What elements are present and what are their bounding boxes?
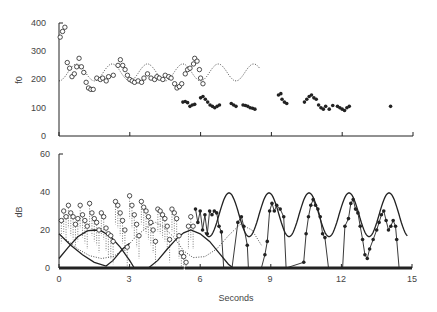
data-point [58, 35, 62, 39]
data-point [94, 220, 98, 224]
data-point [347, 105, 351, 109]
data-point [201, 95, 205, 99]
series-filled-dots-trace [194, 198, 399, 268]
bottom-axes [59, 154, 412, 268]
data-point [172, 82, 176, 86]
data-point [76, 216, 80, 220]
data-point [394, 224, 398, 228]
bottom-series [59, 193, 412, 268]
data-point [184, 260, 188, 264]
data-point [123, 67, 127, 71]
xtick-0: 0 [56, 274, 61, 284]
data-point [275, 204, 279, 208]
data-point [368, 247, 372, 251]
data-point [363, 253, 367, 257]
data-point [186, 101, 190, 105]
data-point [163, 216, 167, 220]
data-point [116, 203, 120, 207]
data-point [316, 207, 320, 211]
data-point [125, 245, 129, 249]
data-point [75, 65, 79, 69]
data-point [121, 63, 125, 67]
data-point [273, 209, 277, 213]
data-point [85, 224, 89, 228]
data-point [263, 253, 267, 257]
data-point [102, 215, 106, 219]
data-point [127, 194, 131, 198]
data-point [116, 63, 120, 67]
data-point [206, 100, 210, 104]
bottom-xlabel: Seconds [218, 293, 254, 303]
data-point [91, 87, 95, 91]
data-point [343, 109, 347, 113]
xtick-9: 9 [267, 274, 272, 284]
chart-canvas: f0 0 100 200 300 400 dB 0 20 40 60 0 3 [0, 0, 437, 312]
data-point [387, 228, 391, 232]
data-point [195, 59, 199, 63]
data-point [123, 228, 127, 232]
data-point [111, 239, 115, 243]
data-point [169, 76, 173, 80]
data-point [174, 216, 178, 220]
data-point [280, 97, 284, 101]
data-point [142, 76, 146, 80]
data-point [153, 239, 157, 243]
data-point [73, 222, 77, 226]
bottom-ylabel: dB [14, 206, 24, 217]
data-point [371, 238, 375, 242]
data-point [59, 218, 63, 222]
data-point [87, 201, 91, 205]
data-point [196, 221, 200, 225]
data-point [205, 232, 209, 236]
bottom-ytick-40: 40 [40, 187, 50, 197]
data-point [220, 230, 224, 234]
top-ytick-100: 100 [31, 103, 46, 113]
data-point [343, 224, 347, 228]
xtick-6: 6 [197, 274, 202, 284]
data-point [395, 238, 399, 242]
top-ytick-200: 200 [31, 74, 46, 84]
data-point [167, 237, 171, 241]
top-ytick-0: 0 [41, 131, 46, 141]
data-point [111, 73, 115, 77]
data-point [139, 199, 143, 203]
data-point [391, 219, 395, 223]
bottom-ytick-labels: 0 20 40 60 [40, 149, 50, 273]
data-point [65, 60, 69, 64]
bottom-panel-db: dB 0 20 40 60 0 3 6 9 12 15 Seconds [14, 149, 417, 303]
data-point [305, 97, 309, 101]
data-point [245, 243, 249, 247]
data-point [77, 56, 81, 60]
data-point [210, 213, 214, 217]
top-ylabel: f0 [14, 76, 24, 84]
data-point [375, 228, 379, 232]
data-point [64, 215, 68, 219]
data-point [304, 232, 308, 236]
data-point [191, 224, 195, 228]
data-point [310, 93, 314, 97]
data-point [78, 203, 82, 207]
data-point [197, 67, 201, 71]
top-panel-f0: f0 0 100 200 300 400 [14, 18, 413, 141]
data-point [324, 105, 328, 109]
data-point [118, 58, 122, 62]
data-point [347, 217, 351, 221]
data-point [285, 102, 289, 106]
data-point [72, 72, 76, 76]
data-point [109, 234, 113, 238]
data-point [132, 213, 136, 217]
data-point [270, 202, 274, 206]
series-open-circles [58, 25, 205, 92]
data-point [186, 224, 190, 228]
data-point [145, 72, 149, 76]
data-point [327, 107, 331, 111]
data-point [104, 79, 108, 83]
data-point [311, 198, 315, 202]
top-ytick-300: 300 [31, 46, 46, 56]
data-point [380, 213, 384, 217]
data-point [198, 76, 202, 80]
bottom-ytick-0: 0 [45, 263, 50, 273]
data-point [208, 209, 212, 213]
data-point [203, 213, 207, 217]
bottom-ytick-20: 20 [40, 225, 50, 235]
